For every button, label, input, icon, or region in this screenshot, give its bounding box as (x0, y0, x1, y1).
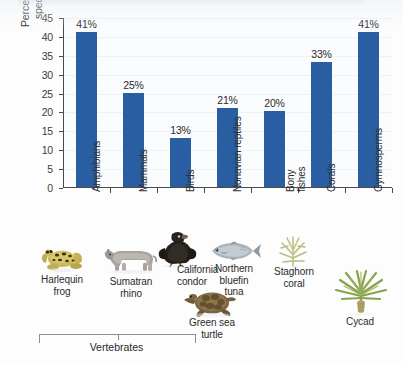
gridline (64, 37, 392, 38)
gridline (64, 18, 392, 19)
category-label-birds: Birds (185, 170, 196, 192)
category-label-corals: Corals (326, 164, 337, 192)
gridline (64, 75, 392, 76)
y-axis-tick-label: 30 (42, 69, 53, 81)
coral-caption: Staghorn coral (266, 266, 322, 289)
x-axis-line (63, 187, 392, 188)
bar-value-label: 21% (217, 94, 237, 106)
y-axis-tick-label: 25 (42, 88, 53, 100)
tuna-caption-line3: tuna (224, 286, 243, 297)
y-axis-tick-label: 20 (42, 106, 53, 118)
coral-caption-line2: coral (283, 278, 304, 289)
frog-caption-line1: Harlequin (41, 274, 83, 285)
y-axis-tick-label: 35 (42, 50, 53, 62)
y-axis-title: Percentage of threatened species in each… (14, 0, 50, 54)
category-label-line: Corals (326, 164, 337, 192)
category-label-gymnosperms: Gymnosperms (373, 128, 384, 192)
x-axis-tick (251, 188, 252, 193)
category-label-line: fishes (296, 166, 307, 192)
category-label-line: Birds (185, 170, 196, 192)
coral-photo (270, 234, 316, 268)
y-axis-tick-label: 45 (42, 12, 53, 24)
x-axis-tick (204, 188, 205, 193)
category-label-line: Nonavian reptiles (232, 116, 243, 192)
y-axis-tick-label: 0 (47, 182, 53, 194)
x-axis-tick (345, 188, 346, 193)
frog-caption: Harlequin frog (27, 274, 97, 297)
condor-caption-line2: condor (177, 276, 207, 287)
bar-value-label: 13% (170, 124, 190, 136)
y-axis-tick: 0 (59, 188, 63, 189)
x-axis-tick (392, 188, 393, 193)
bracket-stem (118, 335, 119, 340)
y-axis-tick-label: 10 (42, 144, 53, 156)
x-axis-tick (157, 188, 158, 193)
bar-value-label: 25% (123, 79, 143, 91)
condor-photo (152, 228, 202, 268)
vertebrates-bracket-label: Vertebrates (39, 341, 194, 353)
category-label-amphibians: Amphibians (91, 141, 102, 192)
bar-value-label: 33% (311, 48, 331, 60)
category-label-line: Mammals (138, 149, 149, 192)
category-label-line: Gymnosperms (373, 128, 384, 192)
category-label-line: Amphibians (91, 141, 102, 192)
frog-photo (36, 243, 88, 273)
tuna-caption: Northern bluefin tuna (205, 263, 263, 298)
tuna-caption-line2: bluefin (220, 275, 249, 286)
gridline (64, 56, 392, 57)
rhino-caption: Sumatran rhino (96, 276, 166, 299)
y-axis-title-line1: Percentage of threatened (19, 0, 31, 27)
category-label-line: Bony (285, 170, 296, 192)
y-axis-tick-label: 15 (42, 125, 53, 137)
bar-value-label: 41% (76, 18, 96, 30)
bar (264, 111, 285, 187)
y-axis-tick-label: 5 (47, 163, 53, 175)
frog-caption-line2: frog (54, 286, 71, 297)
rhino-caption-line2: rhino (120, 288, 142, 299)
y-axis-tick-label: 40 (42, 31, 53, 43)
scan-artifact-band (18, 0, 364, 5)
turtle-caption-line1: Green sea (189, 317, 235, 328)
tuna-caption-line1: Northern (215, 263, 253, 274)
cycad-photo (330, 268, 392, 316)
tuna-photo (204, 238, 262, 264)
bar-value-label: 20% (264, 97, 284, 109)
turtle-caption-line2: turtle (201, 329, 223, 340)
cycad-caption-line1: Cycad (346, 316, 374, 327)
plot-area: 051015202530354045 41%25%13%21%20%33%41% (63, 18, 392, 188)
coral-caption-line1: Staghorn (274, 266, 314, 277)
rhino-caption-line1: Sumatran (110, 276, 153, 287)
category-label-mammals: Mammals (138, 149, 149, 192)
x-axis-tick (110, 188, 111, 193)
threatened-species-figure: Percentage of threatened species in each… (0, 0, 403, 365)
category-label-nonavian-reptiles: Nonavian reptiles (232, 116, 243, 192)
bar-value-label: 41% (358, 18, 378, 30)
rhino-photo (101, 243, 159, 275)
category-label-bony-fishes: Bonyfishes (285, 132, 307, 192)
y-axis-line (63, 18, 64, 188)
cycad-caption: Cycad (331, 316, 389, 328)
